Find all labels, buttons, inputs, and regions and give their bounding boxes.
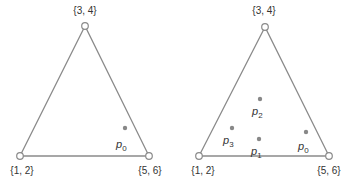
- point-dot: [123, 126, 127, 130]
- triangle-edges: [20, 26, 149, 156]
- point-label: p3: [222, 134, 234, 149]
- vertex-marker: [82, 23, 89, 30]
- vertex-marker: [17, 153, 24, 160]
- point-dot: [304, 130, 308, 134]
- point-label: p0: [297, 140, 309, 155]
- point-label: p2: [251, 105, 263, 120]
- vertex-label: {1, 2}: [10, 165, 34, 176]
- vertex-label: {3, 4}: [73, 5, 97, 16]
- vertex-label: {1, 2}: [191, 165, 215, 176]
- triangle-edges: [199, 27, 329, 156]
- point-label: p1: [250, 145, 262, 160]
- vertex-label: {5, 6}: [317, 165, 341, 176]
- vertex-marker: [262, 24, 269, 31]
- triangle-diagrams: {3, 4}{1, 2}{5, 6}p0{3, 4}{1, 2}{5, 6}p2…: [0, 0, 344, 183]
- vertex-marker: [146, 153, 153, 160]
- vertex-marker: [196, 153, 203, 160]
- vertex-marker: [326, 153, 333, 160]
- left-triangle: {3, 4}{1, 2}{5, 6}p0: [10, 5, 162, 176]
- point-dot: [230, 126, 234, 130]
- point-dot: [257, 137, 261, 141]
- right-triangle: {3, 4}{1, 2}{5, 6}p2p3p1p0: [191, 5, 341, 176]
- point-dot: [258, 97, 262, 101]
- point-label: p0: [115, 138, 127, 153]
- vertex-label: {5, 6}: [138, 165, 162, 176]
- vertex-label: {3, 4}: [252, 5, 276, 16]
